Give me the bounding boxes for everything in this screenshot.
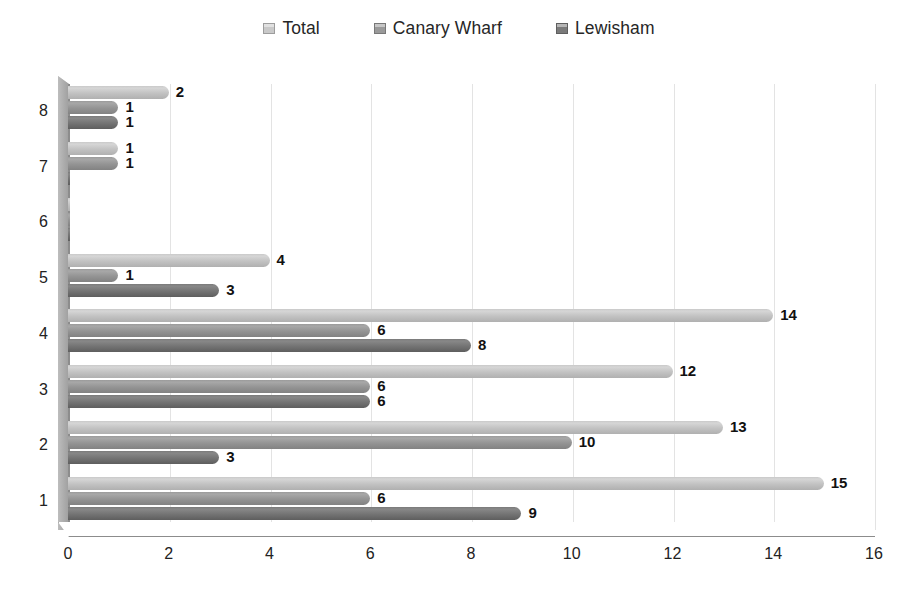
x-axis-tick-label: 12 [664,545,682,563]
bar-value-label: 8 [478,338,486,351]
bar-canary-wharf [68,213,70,226]
bar-row: 6 [68,395,874,408]
bar-row [68,172,874,185]
chart-floor [58,522,875,537]
bar-value-label: 1 [125,100,133,113]
bar-value-label: 6 [377,379,385,392]
bar-lewisham [68,228,70,241]
bar-value-label: 12 [680,364,697,377]
bar-row: 1 [68,157,874,170]
bar-value-label: 3 [226,450,234,463]
bar-row: 2 [68,86,874,99]
y-axis-tick-label: 5 [26,269,48,287]
bar-row: 1 [68,142,874,155]
bar-value-label: 1 [125,115,133,128]
y-axis-tick-label: 2 [26,436,48,454]
bar-row: 9 [68,507,874,520]
bar-chart: TotalCanary WharfLewisham 02468101214168… [0,0,918,593]
gridline [875,84,876,530]
x-axis-tick-label: 10 [563,545,581,563]
bar-canary-wharf[interactable] [68,157,118,170]
y-axis-tick-label: 1 [26,492,48,510]
bar-lewisham[interactable] [68,451,219,464]
bar-row [68,228,874,241]
bar-row: 1 [68,116,874,129]
bar-row [68,213,874,226]
bar-value-label: 1 [125,156,133,169]
bar-total [68,198,70,211]
bar-value-label: 15 [831,476,848,489]
bar-lewisham[interactable] [68,339,471,352]
y-axis-tick-label: 8 [26,102,48,120]
bar-lewisham[interactable] [68,507,521,520]
x-axis-tick-label: 4 [265,545,274,563]
bar-lewisham[interactable] [68,284,219,297]
bar-lewisham[interactable] [68,116,118,129]
bar-row: 3 [68,451,874,464]
bar-lewisham [68,172,70,185]
y-axis-tick-label: 3 [26,381,48,399]
x-axis-tick-label: 2 [164,545,173,563]
bar-row [68,198,874,211]
bar-value-label: 13 [730,420,747,433]
x-axis-tick-label: 14 [764,545,782,563]
bar-row: 1 [68,101,874,114]
x-axis-tick-label: 8 [467,545,476,563]
bar-value-label: 6 [377,394,385,407]
y-axis-tick-label: 4 [26,325,48,343]
y-axis-tick-label: 7 [26,158,48,176]
bar-row: 8 [68,339,874,352]
x-axis-tick-label: 6 [366,545,375,563]
bar-value-label: 14 [780,308,797,321]
x-axis-tick-label: 16 [865,545,883,563]
bar-value-label: 1 [125,141,133,154]
bar-value-label: 9 [528,506,536,519]
bar-value-label: 10 [579,435,596,448]
bar-row: 4 [68,254,874,267]
bar-value-label: 2 [176,85,184,98]
bar-lewisham[interactable] [68,395,370,408]
x-axis-tick-label: 0 [64,545,73,563]
bar-value-label: 4 [277,253,285,266]
bar-value-label: 3 [226,283,234,296]
bar-row: 3 [68,284,874,297]
y-axis-tick-label: 6 [26,213,48,231]
